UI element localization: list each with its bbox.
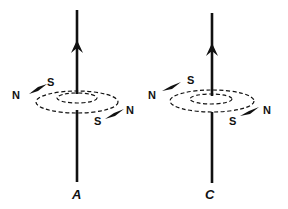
compass-needle-icon (105, 109, 124, 119)
compass-a-top: N S (12, 76, 54, 101)
compass-north-label: N (12, 89, 20, 101)
compass-a-bottom: N S (94, 104, 134, 127)
field-line-inner-a (57, 93, 97, 103)
compass-north-label: N (148, 89, 156, 101)
compass-c-top: N S (148, 74, 194, 101)
compass-south-label: S (229, 115, 236, 127)
field-line-outer-a (36, 91, 118, 113)
wire-a-group: N S N S A (12, 10, 134, 202)
compass-south-label: S (94, 115, 101, 127)
wire-c-group: N S N S C (148, 13, 271, 202)
wire-label-c: C (205, 187, 215, 202)
compass-needle-icon (162, 82, 181, 91)
compass-c-bottom: N S (229, 104, 271, 127)
compass-north-label: N (126, 104, 134, 116)
diagram-canvas: N S N S A N S N S C (0, 0, 288, 209)
compass-north-label: N (263, 104, 271, 116)
wire-label-a: A (71, 187, 81, 202)
compass-needle-icon (29, 84, 47, 94)
compass-south-label: S (187, 74, 194, 86)
compass-south-label: S (47, 76, 54, 88)
